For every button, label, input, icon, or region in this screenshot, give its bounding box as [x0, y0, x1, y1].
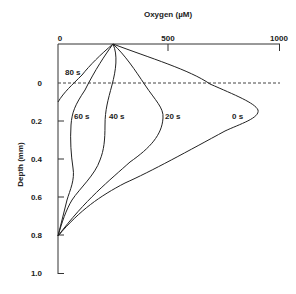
y-tick-label-0: 0	[18, 79, 42, 88]
y-tick-label-0.4: 0.4	[18, 155, 42, 164]
x-tick-label-0: 0	[58, 34, 62, 43]
curve-label-20s: 20 s	[165, 112, 181, 121]
curve-label-0s: 0 s	[232, 112, 243, 121]
y-axis-title: Depth (mm)	[16, 135, 25, 195]
y-tick-label-0.6: 0.6	[18, 193, 42, 202]
x-tick-label-1000: 1000	[270, 34, 288, 43]
y-ticks	[58, 121, 64, 274]
x-tick-label-500: 500	[161, 34, 174, 43]
curve-0s	[58, 44, 258, 236]
oxygen-depth-chart	[0, 0, 296, 294]
x-axis-title: Oxygen (µM)	[0, 10, 296, 19]
curve-label-40s: 40 s	[109, 112, 125, 121]
curve-label-80s: 80 s	[65, 68, 81, 77]
curve-label-60s: 60 s	[74, 112, 90, 121]
y-tick-label-1.0: 1.0	[18, 269, 42, 278]
y-tick-label-0.2: 0.2	[18, 117, 42, 126]
y-tick-label-0.8: 0.8	[18, 231, 42, 240]
